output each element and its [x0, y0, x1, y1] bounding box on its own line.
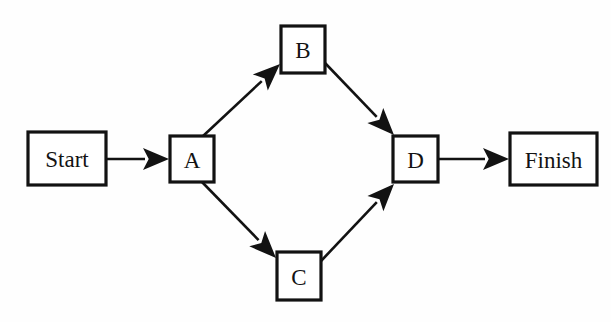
node-label-b: B: [295, 38, 310, 63]
node-b[interactable]: B: [281, 26, 325, 73]
edge-b-to-d: [325, 63, 394, 135]
arrow-head-icon: [143, 148, 169, 170]
node-label-a: A: [184, 148, 201, 173]
flowchart-canvas: StartABCDFinish: [0, 0, 611, 322]
node-label-d: D: [407, 148, 424, 173]
flowchart-diagram: StartABCDFinish: [0, 0, 611, 322]
node-d[interactable]: D: [393, 136, 438, 182]
nodes-layer: StartABCDFinish: [28, 26, 597, 300]
node-label-c: C: [291, 265, 306, 290]
node-c[interactable]: C: [277, 252, 321, 300]
node-label-finish: Finish: [525, 148, 583, 173]
edge-line: [325, 63, 377, 117]
edge-a-to-b: [202, 64, 280, 137]
edge-c-to-d: [321, 184, 394, 261]
edge-start-to-a: [106, 148, 169, 170]
edge-d-to-finish: [438, 148, 509, 170]
arrow-head-icon: [483, 148, 509, 170]
node-label-start: Start: [45, 147, 89, 172]
edge-a-to-c: [202, 182, 276, 258]
edges-layer: [106, 63, 509, 261]
node-start[interactable]: Start: [28, 132, 106, 185]
edge-line: [202, 182, 259, 240]
node-a[interactable]: A: [170, 136, 214, 182]
edge-line: [321, 202, 377, 261]
node-finish[interactable]: Finish: [510, 133, 597, 185]
edge-line: [202, 81, 262, 137]
